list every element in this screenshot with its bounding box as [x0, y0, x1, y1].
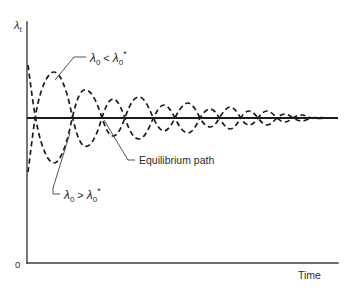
annotation-equilibrium-path: Equilibrium path [139, 154, 214, 166]
leader-line-equilibrium-annotation [104, 120, 135, 160]
origin-label: 0 [15, 259, 20, 270]
oscillation-curve-lambda0-above [28, 65, 338, 163]
y-axis-label: λt [13, 19, 22, 34]
annotation-lambda0-less-than-star: λ0<λ0* [89, 49, 127, 67]
annotation-lambda0-greater-than-star: λ0>λ0* [63, 186, 101, 204]
figure-container: λt 0 Time λ0<λ0* λ0>λ0* Equilibrium path [0, 0, 350, 292]
lambda-time-chart: λt 0 Time λ0<λ0* λ0>λ0* Equilibrium path [0, 0, 350, 292]
x-axis-label: Time [298, 269, 321, 281]
